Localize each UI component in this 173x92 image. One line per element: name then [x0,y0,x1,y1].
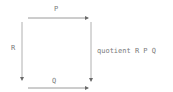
commutative-diagram: P R Q quotient R P Q [0,0,173,92]
label-q: Q [52,78,56,85]
diagram-arrows [0,0,173,92]
label-p: P [54,6,58,13]
caption-quotient: quotient R P Q [97,48,156,55]
label-r: R [11,45,15,52]
